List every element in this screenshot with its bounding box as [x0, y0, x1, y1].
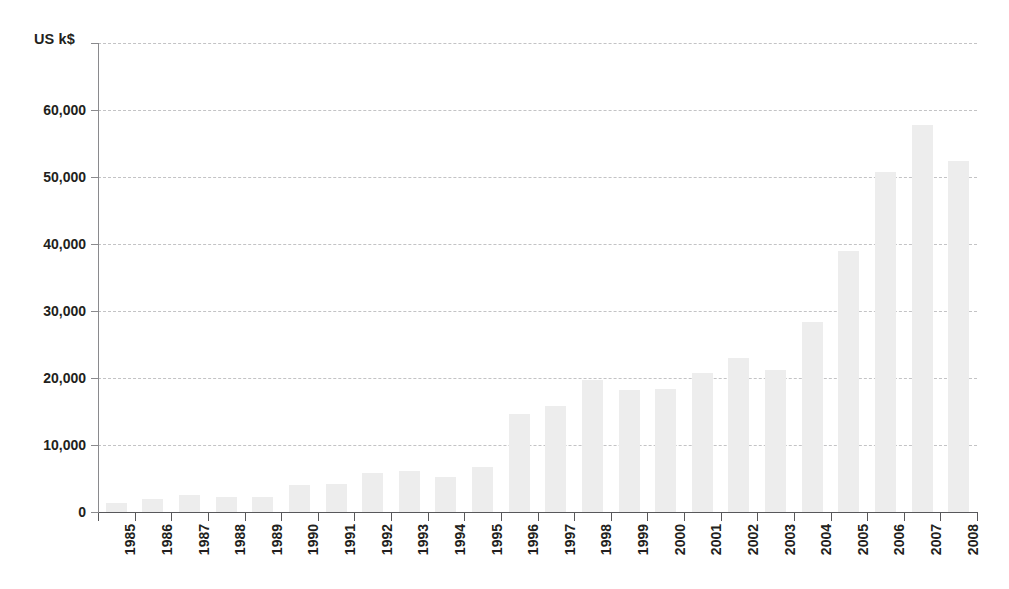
bar — [875, 172, 896, 512]
x-tick-mark — [831, 513, 832, 521]
bar — [252, 497, 273, 512]
x-tick-label: 1997 — [562, 524, 578, 555]
bar — [838, 251, 859, 512]
bar — [545, 406, 566, 512]
x-tick-label: 2000 — [672, 524, 688, 555]
x-tick-mark — [538, 513, 539, 521]
x-tick-label: 1996 — [525, 524, 541, 555]
x-tick-label: 2006 — [891, 524, 907, 555]
x-tick-mark — [391, 513, 392, 521]
x-tick-mark — [501, 513, 502, 521]
x-tick-label: 2004 — [818, 524, 834, 555]
x-tick-mark — [245, 513, 246, 521]
x-tick-mark — [281, 513, 282, 521]
x-tick-mark — [721, 513, 722, 521]
y-tick-label: 20,000 — [43, 370, 86, 386]
x-tick-label: 1999 — [635, 524, 651, 555]
bar — [362, 473, 383, 512]
x-tick-mark — [135, 513, 136, 521]
x-tick-label: 1989 — [269, 524, 285, 555]
x-tick-mark — [904, 513, 905, 521]
x-tick-mark — [867, 513, 868, 521]
bar — [582, 380, 603, 512]
x-tick-label: 2002 — [745, 524, 761, 555]
y-tick-label: 10,000 — [43, 437, 86, 453]
x-tick-mark — [940, 513, 941, 521]
bar — [509, 414, 530, 512]
bar — [435, 477, 456, 512]
bar — [619, 390, 640, 512]
x-tick-mark — [98, 513, 99, 521]
x-tick-mark — [647, 513, 648, 521]
x-tick-label: 2001 — [708, 524, 724, 555]
bar — [472, 467, 493, 512]
x-tick-mark — [428, 513, 429, 521]
x-tick-label: 1991 — [342, 524, 358, 555]
y-tick-label: 40,000 — [43, 236, 86, 252]
bar-chart-figure: US k$ 010,00020,00030,00040,00050,00060,… — [0, 0, 1009, 589]
bar — [692, 373, 713, 512]
x-tick-label: 1993 — [415, 524, 431, 555]
bar — [912, 125, 933, 512]
x-tick-label: 1994 — [452, 524, 468, 555]
x-tick-mark — [171, 513, 172, 521]
x-tick-label: 1986 — [159, 524, 175, 555]
x-tick-label: 1985 — [122, 524, 138, 555]
bar — [179, 495, 200, 512]
x-tick-mark — [684, 513, 685, 521]
bar — [216, 497, 237, 512]
x-tick-label: 2008 — [965, 524, 981, 555]
x-tick-label: 2003 — [782, 524, 798, 555]
x-tick-mark — [318, 513, 319, 521]
y-tick-label: 30,000 — [43, 303, 86, 319]
bar — [948, 161, 969, 512]
x-tick-mark — [794, 513, 795, 521]
x-tick-mark — [354, 513, 355, 521]
x-tick-mark — [574, 513, 575, 521]
bar — [326, 484, 347, 512]
bar — [106, 503, 127, 512]
bar — [399, 471, 420, 512]
x-tick-mark — [464, 513, 465, 521]
x-tick-mark — [977, 513, 978, 521]
y-axis-tick-labels: 010,00020,00030,00040,00050,00060,000 — [0, 0, 86, 589]
x-tick-label: 1995 — [489, 524, 505, 555]
bar — [289, 485, 310, 512]
y-tick-label: 50,000 — [43, 169, 86, 185]
bar — [765, 370, 786, 512]
x-tick-label: 1987 — [196, 524, 212, 555]
bar — [142, 499, 163, 512]
bars-layer — [98, 43, 978, 512]
bar — [655, 389, 676, 512]
x-tick-label: 1992 — [379, 524, 395, 555]
x-tick-label: 2005 — [855, 524, 871, 555]
x-tick-label: 1990 — [305, 524, 321, 555]
y-tick-label: 0 — [78, 504, 86, 520]
x-tick-label: 1998 — [598, 524, 614, 555]
x-tick-label: 2007 — [928, 524, 944, 555]
y-tick-label: 60,000 — [43, 102, 86, 118]
x-tick-mark — [611, 513, 612, 521]
bar — [802, 322, 823, 512]
x-tick-mark — [208, 513, 209, 521]
x-tick-mark — [757, 513, 758, 521]
bar — [728, 358, 749, 512]
x-tick-label: 1988 — [232, 524, 248, 555]
